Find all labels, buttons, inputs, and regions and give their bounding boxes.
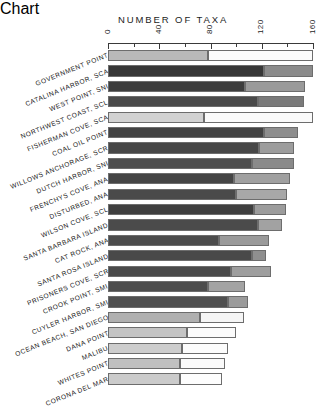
bar-row bbox=[108, 112, 313, 123]
bar-segment-1 bbox=[108, 112, 204, 123]
bar-segment-2 bbox=[234, 173, 290, 184]
bar-segment-2 bbox=[208, 50, 313, 61]
bar-segment-2 bbox=[245, 81, 305, 92]
bar-row bbox=[108, 281, 245, 292]
bar-segment-2 bbox=[258, 96, 304, 107]
bar-segment-1 bbox=[108, 296, 228, 307]
bar-segment-1 bbox=[108, 327, 187, 338]
bar-segment-1 bbox=[108, 343, 182, 354]
bar-row bbox=[108, 173, 290, 184]
bar-row bbox=[108, 296, 248, 307]
bar-segment-1 bbox=[108, 219, 258, 230]
bar-segment-1 bbox=[108, 96, 258, 107]
bar-row bbox=[108, 358, 225, 369]
bar-segment-2 bbox=[208, 281, 245, 292]
bar-segment-1 bbox=[108, 142, 259, 153]
bar-segment-2 bbox=[252, 250, 266, 261]
bar-row bbox=[108, 65, 313, 76]
bar-row bbox=[108, 235, 269, 246]
bar-row bbox=[108, 142, 294, 153]
bar-segment-2 bbox=[231, 266, 271, 277]
bar-segment-2 bbox=[264, 127, 297, 138]
bar-row bbox=[108, 343, 228, 354]
bar-segment-1 bbox=[108, 173, 234, 184]
bar-row bbox=[108, 373, 222, 384]
bar-segment-2 bbox=[254, 204, 286, 215]
bar-row bbox=[108, 219, 282, 230]
bar-row bbox=[108, 96, 304, 107]
bar-row bbox=[108, 327, 236, 338]
bar-segment-1 bbox=[108, 65, 264, 76]
bar-segment-1 bbox=[108, 235, 219, 246]
bar-segment-1 bbox=[108, 266, 231, 277]
bar-segment-1 bbox=[108, 312, 200, 323]
bar-row bbox=[108, 189, 287, 200]
bar-row bbox=[108, 250, 266, 261]
bar-segment-2 bbox=[200, 312, 244, 323]
bar-segment-1 bbox=[108, 204, 254, 215]
bar-segment-2 bbox=[236, 189, 287, 200]
bar-segment-2 bbox=[258, 219, 282, 230]
bar-segment-1 bbox=[108, 250, 252, 261]
bar-segment-2 bbox=[264, 65, 313, 76]
bar-row bbox=[108, 127, 298, 138]
bar-segment-1 bbox=[108, 50, 208, 61]
bar-segment-1 bbox=[108, 127, 264, 138]
bar-segment-2 bbox=[228, 296, 247, 307]
bar-segment-1 bbox=[108, 81, 245, 92]
bar-row bbox=[108, 50, 313, 61]
bar-row bbox=[108, 312, 244, 323]
bar-segment-2 bbox=[180, 358, 225, 369]
bar-row bbox=[108, 81, 305, 92]
bar-segment-2 bbox=[259, 142, 294, 153]
bar-segment-2 bbox=[187, 327, 236, 338]
bar-segment-2 bbox=[219, 235, 269, 246]
bar-row bbox=[108, 204, 286, 215]
bar-segment-2 bbox=[204, 112, 313, 123]
bar-segment-2 bbox=[180, 373, 222, 384]
bar-segment-1 bbox=[108, 281, 208, 292]
bar-segment-2 bbox=[182, 343, 228, 354]
bar-row bbox=[108, 266, 271, 277]
bar-segment-1 bbox=[108, 189, 236, 200]
bar-segment-1 bbox=[108, 373, 180, 384]
bar-row bbox=[108, 158, 294, 169]
bar-segment-1 bbox=[108, 358, 180, 369]
bar-segment-1 bbox=[108, 158, 252, 169]
bar-segment-2 bbox=[252, 158, 294, 169]
